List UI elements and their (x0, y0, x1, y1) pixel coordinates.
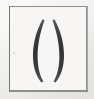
frame-edge-bottom (9, 91, 88, 92)
right-parenthesis-stroke (53, 19, 65, 82)
parentheses-glyph-svg (10, 7, 87, 91)
glyph-area (10, 7, 87, 91)
screenshot-canvas (0, 0, 94, 99)
left-parenthesis-stroke (33, 19, 45, 82)
frame-edge-right (87, 6, 88, 92)
